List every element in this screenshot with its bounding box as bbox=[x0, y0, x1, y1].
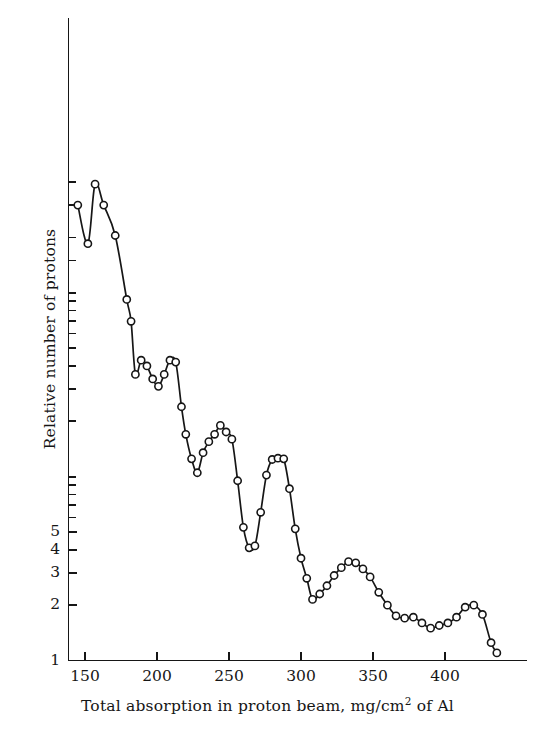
data-point-40 bbox=[323, 582, 330, 589]
x-tick-label-300: 300 bbox=[271, 667, 331, 685]
data-point-59 bbox=[479, 611, 486, 618]
data-point-55 bbox=[444, 619, 451, 626]
data-point-61 bbox=[493, 649, 500, 656]
data-point-51 bbox=[410, 614, 417, 621]
data-point-8 bbox=[138, 357, 145, 364]
data-point-14 bbox=[172, 358, 179, 365]
data-point-1 bbox=[84, 240, 91, 247]
x-axis-title: Total absorption in proton beam, mg/cm2 … bbox=[0, 697, 535, 715]
data-point-0 bbox=[74, 202, 81, 209]
data-point-2 bbox=[91, 181, 98, 188]
data-point-37 bbox=[303, 575, 310, 582]
data-point-56 bbox=[453, 614, 460, 621]
data-point-53 bbox=[427, 625, 434, 632]
x-tick-label-150: 150 bbox=[55, 667, 115, 685]
data-point-10 bbox=[149, 375, 156, 382]
data-point-38 bbox=[309, 596, 316, 603]
data-curve bbox=[78, 183, 497, 653]
y-tick-label-3: 3 bbox=[30, 563, 60, 581]
data-point-45 bbox=[359, 565, 366, 572]
data-point-3 bbox=[100, 202, 107, 209]
data-point-9 bbox=[143, 362, 150, 369]
data-point-4 bbox=[112, 232, 119, 239]
data-point-39 bbox=[316, 590, 323, 597]
data-point-48 bbox=[384, 602, 391, 609]
data-point-25 bbox=[234, 477, 241, 484]
data-point-30 bbox=[263, 471, 270, 478]
data-point-5 bbox=[123, 296, 130, 303]
data-point-46 bbox=[367, 573, 374, 580]
data-point-12 bbox=[161, 371, 168, 378]
data-point-60 bbox=[487, 639, 494, 646]
data-point-41 bbox=[331, 572, 338, 579]
data-point-47 bbox=[375, 589, 382, 596]
x-tick-label-400: 400 bbox=[415, 667, 475, 685]
data-point-57 bbox=[462, 604, 469, 611]
data-point-49 bbox=[392, 612, 399, 619]
x-axis-title-tail: of Al bbox=[412, 697, 454, 715]
data-curve-group bbox=[78, 183, 497, 653]
data-point-11 bbox=[155, 383, 162, 390]
x-axis-title-main: Total absorption in proton beam, mg/cm bbox=[81, 697, 405, 715]
data-point-58 bbox=[470, 602, 477, 609]
data-point-54 bbox=[436, 622, 443, 629]
data-point-18 bbox=[194, 469, 201, 476]
data-point-36 bbox=[297, 555, 304, 562]
data-point-6 bbox=[127, 318, 134, 325]
data-point-50 bbox=[401, 615, 408, 622]
data-point-15 bbox=[178, 403, 185, 410]
data-point-44 bbox=[352, 559, 359, 566]
data-point-22 bbox=[217, 422, 224, 429]
data-point-20 bbox=[205, 438, 212, 445]
x-axis-title-superscript: 2 bbox=[405, 695, 412, 707]
data-point-7 bbox=[132, 371, 139, 378]
data-point-19 bbox=[199, 449, 206, 456]
x-tick-label-350: 350 bbox=[343, 667, 403, 685]
figure-container: 12345 150200250300350400 Relative number… bbox=[0, 0, 535, 739]
data-point-42 bbox=[338, 564, 345, 571]
y-tick-label-2: 2 bbox=[30, 595, 60, 613]
data-point-52 bbox=[418, 619, 425, 626]
y-axis-title: Relative number of protons bbox=[41, 129, 59, 549]
data-point-43 bbox=[345, 558, 352, 565]
data-point-16 bbox=[182, 431, 189, 438]
axes-group bbox=[69, 18, 528, 661]
data-point-34 bbox=[286, 485, 293, 492]
proton-absorption-chart bbox=[0, 0, 535, 739]
data-point-35 bbox=[292, 525, 299, 532]
data-point-26 bbox=[240, 524, 247, 531]
data-point-28 bbox=[251, 542, 258, 549]
x-tick-label-200: 200 bbox=[127, 667, 187, 685]
data-point-17 bbox=[188, 455, 195, 462]
data-point-23 bbox=[223, 428, 230, 435]
data-point-24 bbox=[228, 436, 235, 443]
data-point-29 bbox=[257, 509, 264, 516]
x-tick-label-250: 250 bbox=[199, 667, 259, 685]
data-point-33 bbox=[280, 455, 287, 462]
data-point-21 bbox=[211, 431, 218, 438]
data-markers-group bbox=[74, 181, 500, 657]
